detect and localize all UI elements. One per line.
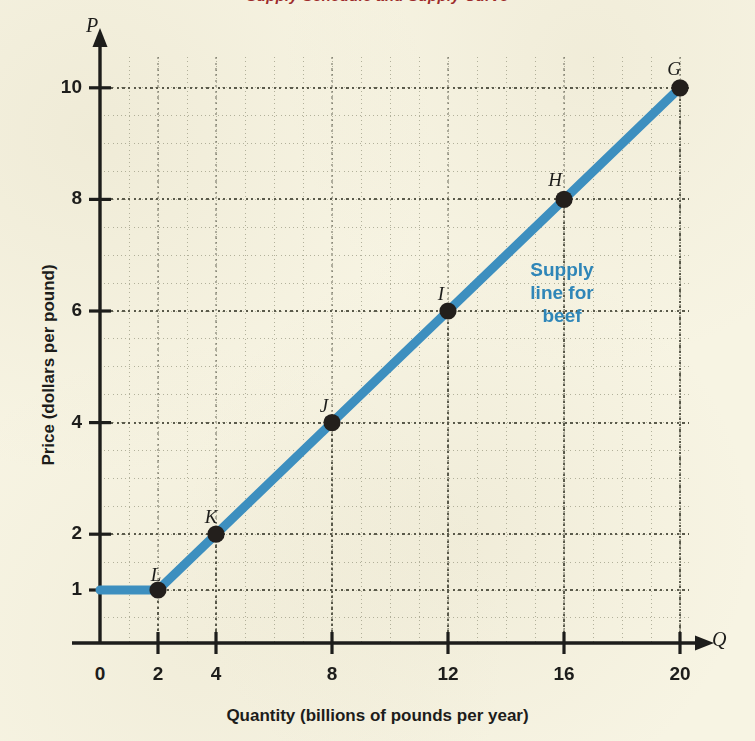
y-tick-label-2: 2 [38,522,82,544]
data-point-label-J: J [312,395,336,417]
x-tick-label-20: 20 [658,663,702,685]
annotation-line-2: line for [497,281,627,304]
data-point-label-H: H [543,169,567,191]
annotation-line-1: Supply [497,258,627,281]
x-tick-label-8: 8 [310,663,354,685]
y-tick-label-8: 8 [38,187,82,209]
data-point-label-I: I [429,283,453,305]
x-axis-letter: Q [712,628,726,651]
figure-canvas: Supply Schedule and Supply Curve P Q Pri… [0,0,755,741]
x-tick-label-16: 16 [542,663,586,685]
supply-line-annotation: Supply line for beef [497,258,627,328]
data-point-label-L: L [144,564,168,586]
x-tick-label-4: 4 [194,663,238,685]
y-tick-label-10: 10 [38,76,82,98]
data-point-label-G: G [662,58,686,80]
y-axis-letter: P [86,14,98,37]
x-tick-label-2: 2 [136,663,180,685]
y-tick-label-1: 1 [38,578,82,600]
y-tick-label-4: 4 [38,411,82,433]
annotation-line-3: beef [497,304,627,327]
x-tick-label-0: 0 [78,663,122,685]
y-tick-label-6: 6 [38,299,82,321]
supply-curve-plot [0,0,755,741]
x-tick-label-12: 12 [426,663,470,685]
x-axis-title: Quantity (billions of pounds per year) [0,706,755,726]
data-point-label-K: K [199,506,223,528]
